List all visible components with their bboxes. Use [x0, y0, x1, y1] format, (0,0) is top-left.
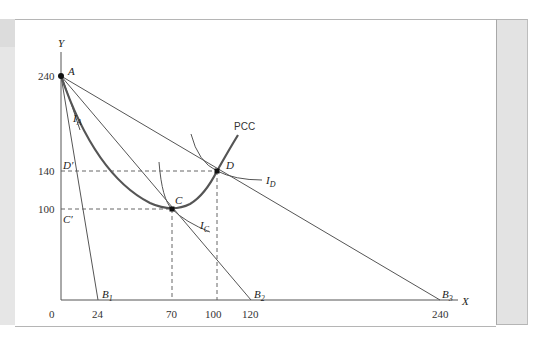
x-tick-120: 120: [242, 308, 259, 320]
budget-line-b3: [61, 76, 440, 300]
point-a-marker: [58, 73, 64, 79]
price-consumption-chart: Y X 240 140 100 0 24 70 100 120 240 A C …: [0, 0, 551, 353]
x-tick-70: 70: [166, 308, 178, 320]
b3-label: B3: [442, 288, 453, 303]
x-tick-0: 0: [49, 308, 55, 320]
point-d-label: D: [225, 159, 234, 171]
d-prime-label: D′: [62, 159, 74, 171]
b1-label: B1: [102, 288, 113, 303]
x-tick-240: 240: [432, 308, 449, 320]
pcc-curve: [61, 76, 238, 208]
x-axis-label: X: [461, 295, 470, 307]
indifference-curve-id: [191, 134, 262, 180]
pcc-label: PCC: [234, 121, 255, 132]
x-tick-100: 100: [205, 308, 222, 320]
budget-line-b1: [61, 76, 98, 300]
y-tick-100: 100: [38, 203, 55, 215]
y-tick-240: 240: [38, 70, 55, 82]
point-c-marker: [170, 207, 175, 212]
y-tick-140: 140: [38, 165, 55, 177]
x-tick-24: 24: [92, 308, 104, 320]
budget-line-b2: [61, 76, 251, 300]
point-d-marker: [215, 169, 220, 174]
point-c-label: C: [175, 194, 183, 206]
ic-label: IC: [199, 219, 210, 234]
id-label: ID: [265, 174, 276, 189]
b2-label: B2: [254, 288, 265, 303]
point-a-label: A: [67, 65, 75, 77]
c-prime-label: C′: [63, 213, 73, 225]
y-axis-label: Y: [58, 37, 66, 49]
